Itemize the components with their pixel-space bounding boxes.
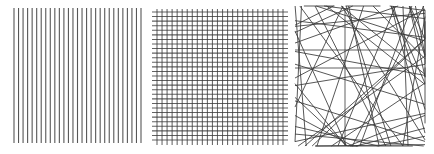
random-lines [295, 6, 425, 146]
parallel-lines [14, 8, 141, 143]
grid-lines [152, 9, 288, 145]
parallel-lines-panel [0, 0, 434, 154]
